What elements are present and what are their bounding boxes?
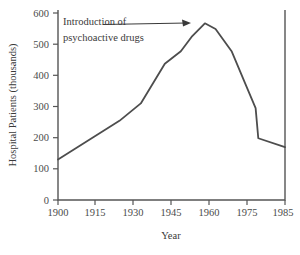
x-tick-label: 1960	[199, 207, 220, 218]
x-tick-label: 1915	[85, 207, 106, 218]
y-tick-label: 100	[33, 163, 49, 174]
y-tick-marks	[53, 13, 58, 200]
x-tick-label: 1945	[161, 207, 182, 218]
y-axis-title: Hospital Patients (thousands)	[7, 43, 19, 167]
y-tick-label: 400	[33, 70, 49, 81]
y-tick-label: 200	[33, 132, 49, 143]
x-tick-label: 1985	[273, 207, 294, 218]
y-tick-label: 600	[33, 8, 49, 19]
line-chart: 0 100 200 300 400 500 600 1900 1915 1930…	[0, 0, 300, 255]
annotation-line-2: psychoactive drugs	[63, 32, 144, 43]
y-tick-label: 300	[33, 101, 49, 112]
y-tick-label: 0	[44, 195, 49, 206]
x-axis-title: Year	[161, 230, 181, 241]
y-axis-tick-labels: 0 100 200 300 400 500 600	[33, 8, 49, 206]
y-tick-label: 500	[33, 39, 49, 50]
x-axis-tick-labels: 1900 1915 1930 1945 1960 1975 1985	[48, 207, 294, 218]
chart-figure: 0 100 200 300 400 500 600 1900 1915 1930…	[0, 0, 300, 255]
x-tick-label: 1975	[237, 207, 258, 218]
annotation-line-1: Introduction of	[63, 16, 127, 27]
x-tick-marks	[58, 200, 285, 205]
data-line-hospital-patients	[58, 23, 285, 159]
x-tick-label: 1900	[48, 207, 69, 218]
x-tick-label: 1930	[123, 207, 144, 218]
